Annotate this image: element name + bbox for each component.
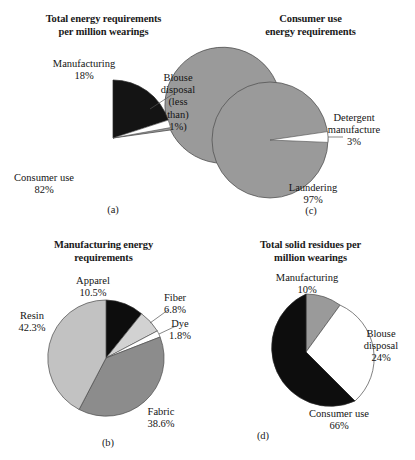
label-manufacturing-d: Manufacturing 10% bbox=[253, 272, 361, 296]
label-apparel-b: Apparel 10.5% bbox=[52, 275, 134, 299]
caption-b: (b) bbox=[88, 437, 128, 448]
label-resin-b: Resin 42.3% bbox=[2, 310, 62, 334]
label-detergent-manufacture-c: Detergent manufacture 3% bbox=[306, 112, 402, 149]
label-laundering-c: Laundering 97% bbox=[267, 182, 359, 206]
caption-a: (a) bbox=[93, 204, 133, 215]
chart-panel-c: Consumer use energy requirements Deterge… bbox=[207, 0, 414, 230]
caption-c: (c) bbox=[291, 205, 331, 216]
label-blouse-disposal-d: Blouse disposal 24% bbox=[352, 328, 410, 365]
label-consumer-use-a: Consumer use 82% bbox=[2, 172, 86, 196]
label-fabric-b: Fabric 38.6% bbox=[128, 406, 194, 430]
chart-panel-d: Total solid residues per million wearing… bbox=[207, 230, 414, 460]
chart-panel-a: Total energy requirements per million we… bbox=[0, 0, 207, 230]
label-blouse-disposal-a: Blouse disposal (less than) 1%) bbox=[150, 72, 206, 133]
label-consumer-use-d: Consumer use 66% bbox=[291, 408, 387, 432]
label-fiber-b: Fiber 6.8% bbox=[145, 292, 205, 316]
label-dye-b: Dye 1.8% bbox=[155, 318, 205, 342]
label-manufacturing-a: Manufacturing 18% bbox=[30, 58, 138, 82]
chart-panel-b: Manufacturing energy requirements Appare… bbox=[0, 230, 207, 460]
caption-d: (d) bbox=[243, 430, 283, 441]
